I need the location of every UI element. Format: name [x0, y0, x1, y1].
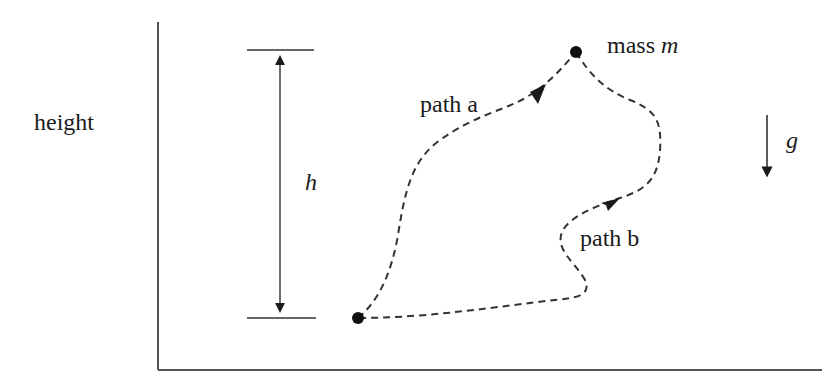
- path-a: path a: [358, 52, 576, 318]
- gravity-symbol: g: [786, 127, 798, 153]
- mass-label: mass m: [607, 32, 678, 58]
- path-b: path b: [358, 52, 660, 318]
- start-point: [352, 312, 364, 324]
- height-dimension: h: [247, 50, 317, 318]
- mass-symbol: m: [661, 32, 678, 58]
- work-path-diagram: height h path a path b mass m g: [0, 0, 838, 380]
- path-a-arrow-icon: [530, 84, 546, 104]
- path-b-label: path b: [580, 225, 639, 251]
- axis-label-height: height: [34, 109, 94, 135]
- gravity-indicator: g: [767, 115, 798, 172]
- path-b-arrow-icon: [601, 198, 620, 211]
- path-b-curve: [358, 52, 660, 318]
- height-symbol: h: [305, 169, 317, 195]
- path-a-label: path a: [420, 91, 478, 117]
- mass-label-prefix: mass: [607, 32, 661, 58]
- mass-point: [570, 46, 582, 58]
